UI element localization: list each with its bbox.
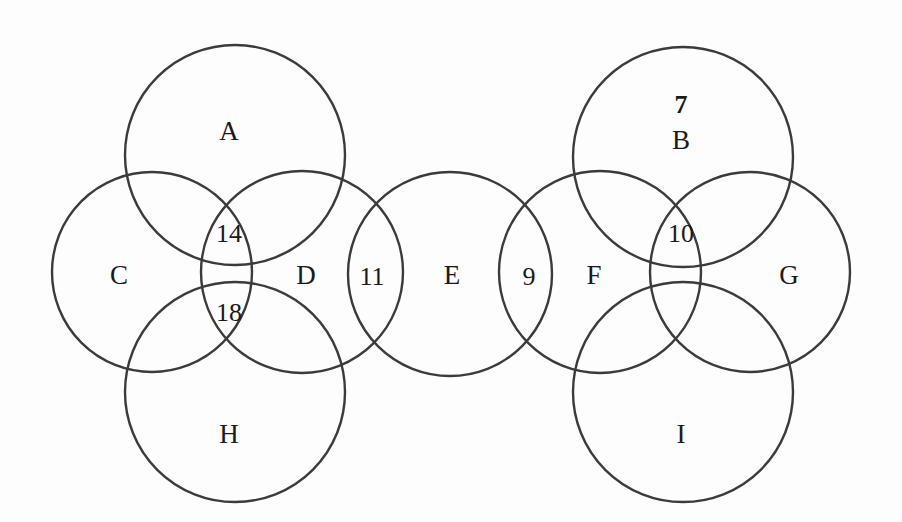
set-label-f: F <box>586 262 601 289</box>
venn-diagram-canvas: A7BC1418D11E9F10GHI <box>0 0 902 522</box>
venn-circle-g[interactable] <box>650 172 850 372</box>
set-label-g: G <box>779 262 799 289</box>
venn-circle-c[interactable] <box>52 172 252 372</box>
region-count-label-n18: 18 <box>216 300 242 326</box>
set-label-a: A <box>219 118 239 145</box>
venn-circle-i[interactable] <box>573 282 793 502</box>
set-label-b: B <box>672 127 690 154</box>
set-label-e: E <box>444 262 461 289</box>
set-label-i: I <box>677 421 686 448</box>
region-count-label-n10: 10 <box>668 221 694 247</box>
set-label-h: H <box>219 421 239 448</box>
region-count-label-n9: 9 <box>523 264 536 290</box>
region-count-label-b7: 7 <box>675 92 688 118</box>
set-label-d: D <box>296 262 316 289</box>
region-count-label-n14: 14 <box>216 221 242 247</box>
set-label-c: C <box>110 262 128 289</box>
region-count-label-n11: 11 <box>359 264 384 290</box>
